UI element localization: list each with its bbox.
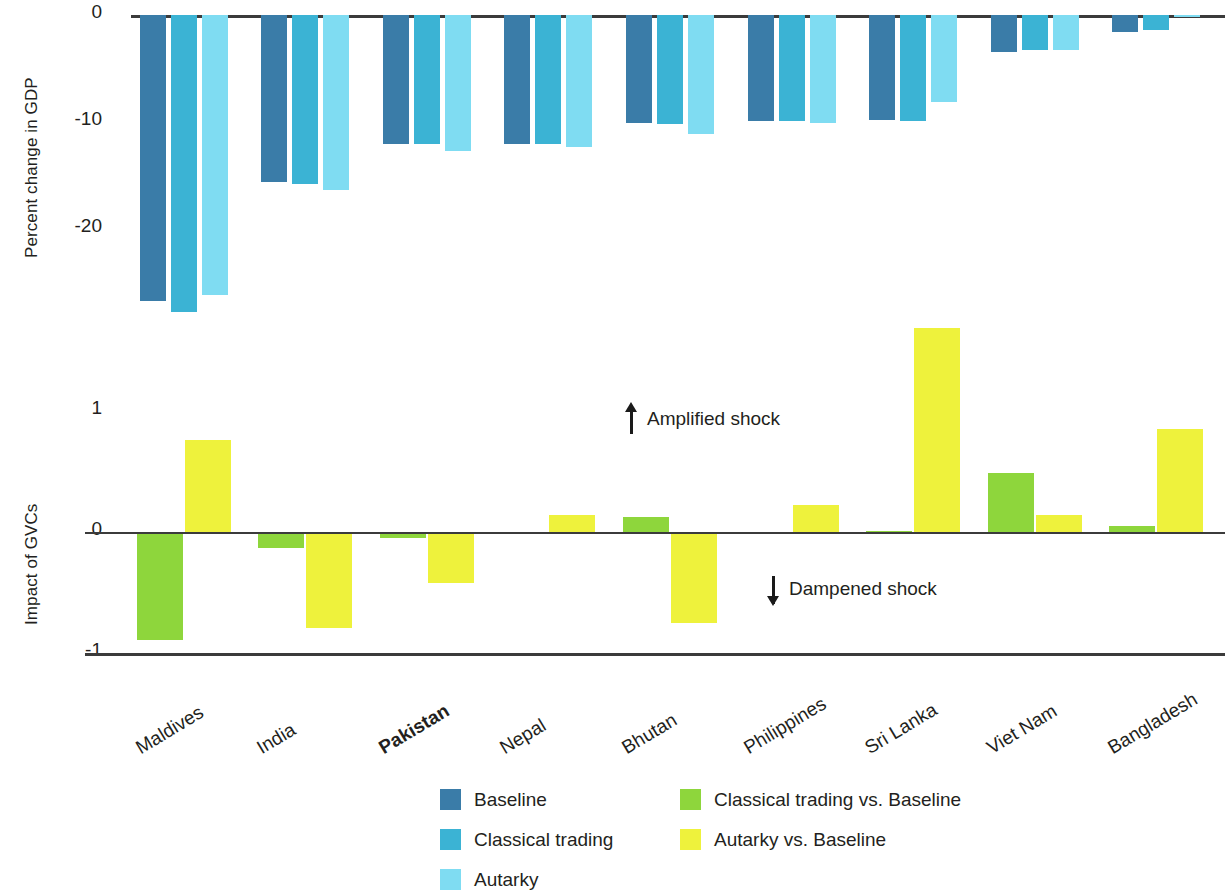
x-axis-label-maldives: Maldives	[132, 701, 208, 758]
top-bar-bhutan-baseline	[626, 15, 652, 123]
x-axis-label-philippines: Philippines	[740, 693, 830, 759]
x-axis-label-pakistan: Pakistan	[375, 700, 453, 759]
top-bar-viet-nam-baseline	[991, 15, 1017, 52]
top-bar-sri-lanka-autarky	[931, 15, 957, 102]
top-bar-maldives-classical-trading	[171, 15, 197, 312]
bottom-bar-bhutan-classical-trading-vs-baseline	[623, 517, 669, 532]
top-bar-philippines-autarky	[810, 15, 836, 123]
legend-item: Classical trading	[440, 824, 613, 855]
top-bar-sri-lanka-baseline	[869, 15, 895, 120]
amplified-shock-label: Amplified shock	[647, 408, 780, 430]
top-bar-bhutan-classical-trading	[657, 15, 683, 124]
legend-label: Classical trading	[474, 829, 613, 851]
top-bar-bangladesh-classical-trading	[1143, 15, 1169, 30]
bottom-bar-bhutan-autarky-vs-baseline	[671, 532, 717, 623]
top-bar-pakistan-baseline	[383, 15, 409, 144]
top-bar-viet-nam-autarky	[1053, 15, 1079, 50]
bottom-bar-bangladesh-autarky-vs-baseline	[1157, 429, 1203, 532]
top-bar-bangladesh-baseline	[1112, 15, 1138, 32]
bottom-bar-viet-nam-autarky-vs-baseline	[1036, 515, 1082, 532]
top-bar-philippines-baseline	[748, 15, 774, 121]
dampened-shock-annotation: Dampened shock	[766, 572, 937, 606]
legend-item: Baseline	[440, 784, 613, 815]
dampened-shock-label: Dampened shock	[789, 578, 937, 600]
x-axis-label-india: India	[253, 719, 300, 759]
bottom-panel-axis-line	[85, 653, 1225, 656]
top-bar-india-baseline	[261, 15, 287, 182]
top-panel-y-axis-title: Percent change in GDP	[22, 77, 42, 258]
top-bar-pakistan-autarky	[445, 15, 471, 151]
top-bar-viet-nam-classical-trading	[1022, 15, 1048, 50]
top-bar-nepal-classical-trading	[535, 15, 561, 144]
top-bar-philippines-classical-trading	[779, 15, 805, 121]
bottom-bar-viet-nam-classical-trading-vs-baseline	[988, 473, 1034, 532]
top-bar-maldives-autarky	[202, 15, 228, 295]
top-bar-bhutan-autarky	[688, 15, 714, 134]
bottom-panel-y-tick-0: 1	[40, 397, 102, 419]
bottom-panel-y-tick-2: -1	[40, 639, 102, 661]
legend-label: Classical trading vs. Baseline	[714, 789, 961, 811]
bottom-bar-maldives-classical-trading-vs-baseline	[137, 532, 183, 640]
bottom-bar-india-classical-trading-vs-baseline	[258, 532, 304, 548]
x-axis-label-bhutan: Bhutan	[618, 709, 681, 759]
bottom-bar-sri-lanka-autarky-vs-baseline	[914, 328, 960, 532]
arrow-down-icon	[766, 572, 780, 606]
top-panel-y-tick-0: 0	[40, 1, 102, 23]
bottom-panel-y-tick-1: 0	[40, 518, 102, 540]
legend-label: Autarky	[474, 869, 538, 891]
legend-swatch-icon	[440, 829, 461, 850]
bottom-bar-philippines-autarky-vs-baseline	[793, 505, 839, 532]
top-bar-sri-lanka-classical-trading	[900, 15, 926, 121]
bottom-bar-nepal-autarky-vs-baseline	[549, 515, 595, 532]
top-panel-y-tick-1: -10	[40, 108, 102, 130]
top-bar-bangladesh-autarky	[1174, 15, 1200, 17]
bottom-panel-plot-area	[85, 320, 1232, 660]
legend-column-left: BaselineClassical tradingAutarky	[440, 784, 613, 894]
legend-item: Autarky	[440, 864, 613, 894]
top-bar-maldives-baseline	[140, 15, 166, 301]
top-bar-nepal-baseline	[504, 15, 530, 144]
top-panel-y-tick-2: -20	[40, 215, 102, 237]
amplified-shock-annotation: Amplified shock	[624, 402, 780, 436]
bottom-panel-zero-line	[85, 532, 1225, 534]
legend-item: Autarky vs. Baseline	[680, 824, 961, 855]
legend-swatch-icon	[680, 829, 701, 850]
arrow-up-icon	[624, 402, 638, 436]
bottom-bar-india-autarky-vs-baseline	[306, 532, 352, 628]
legend-swatch-icon	[680, 789, 701, 810]
legend-label: Autarky vs. Baseline	[714, 829, 886, 851]
top-bar-india-classical-trading	[292, 15, 318, 184]
x-axis-label-sri-lanka: Sri Lanka	[861, 699, 941, 759]
legend-item: Classical trading vs. Baseline	[680, 784, 961, 815]
top-bar-india-autarky	[323, 15, 349, 190]
x-axis-label-bangladesh: Bangladesh	[1104, 688, 1201, 759]
x-axis-label-nepal: Nepal	[496, 714, 550, 758]
x-axis-label-viet-nam: Viet Nam	[983, 700, 1061, 759]
top-bar-nepal-autarky	[566, 15, 592, 147]
legend-label: Baseline	[474, 789, 547, 811]
legend-column-right: Classical trading vs. BaselineAutarky vs…	[680, 784, 961, 864]
legend-swatch-icon	[440, 869, 461, 890]
top-bar-pakistan-classical-trading	[414, 15, 440, 144]
bottom-panel-y-axis-title: Impact of GVCs	[22, 504, 42, 625]
legend-swatch-icon	[440, 789, 461, 810]
bottom-bar-pakistan-autarky-vs-baseline	[428, 532, 474, 583]
bottom-bar-maldives-autarky-vs-baseline	[185, 440, 231, 532]
